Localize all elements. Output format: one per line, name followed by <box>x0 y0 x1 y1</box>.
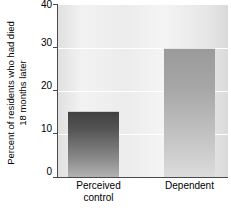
y-axis-title: Percent of residents who had died 18 mon… <box>5 3 35 183</box>
x-axis-line <box>57 177 228 178</box>
x-tick-label-dependent: Dependent <box>150 180 229 192</box>
y-tick-label-0: 0 <box>32 167 52 177</box>
y-tick-label-30: 30 <box>32 38 52 48</box>
bar-top-highlight <box>68 111 119 112</box>
plot-area <box>58 5 228 177</box>
x-axis-tick-labels: Perceived control Dependent <box>58 180 228 211</box>
bar-chart: Percent of residents who had died 18 mon… <box>0 0 231 211</box>
y-axis-tick-labels: 40 30 20 10 0 <box>32 0 52 185</box>
y-tick-label-20: 20 <box>32 81 52 91</box>
bar-dependent <box>164 48 215 177</box>
y-tick-label-10: 10 <box>32 124 52 134</box>
bar-perceived-control <box>68 111 119 177</box>
y-tick-label-40: 40 <box>32 0 52 10</box>
bar-top-highlight <box>164 48 215 49</box>
x-tick-label-perceived-control: Perceived control <box>58 180 139 203</box>
